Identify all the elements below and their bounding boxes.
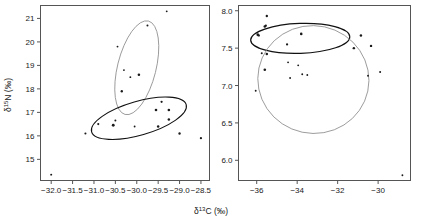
scatter-figure: −32.0−31.5−31.0−30.5−30.0−29.5−29.0−28.5… (0, 0, 422, 222)
y-axis-title-rest: N (‰) (3, 78, 13, 101)
y-axis-title: δ15N (‰) (3, 78, 13, 112)
y-tick-label-left-1: 16 (26, 132, 35, 141)
data-point-right-1 (258, 34, 260, 36)
data-point-right-13 (300, 33, 303, 36)
data-point-right-10 (287, 61, 289, 63)
data-point-right-20 (379, 71, 381, 73)
x-axis-title: δ13C (‰) (194, 206, 228, 216)
x-axis-title-rest: C (‰) (205, 206, 228, 216)
x-tick-label-left-3: −30.5 (105, 186, 126, 195)
x-tick-label-left-7: −28.5 (191, 186, 212, 195)
data-point-left-12 (155, 109, 158, 112)
data-point-left-6 (121, 90, 123, 92)
x-tick-label-left-1: −31.5 (62, 186, 83, 195)
ellipse-left-upper-ellipse (106, 16, 167, 119)
y-tick-label-right-3: 7.5 (221, 44, 233, 53)
figure-root: −32.0−31.5−31.0−30.5−30.0−29.5−29.0−28.5… (0, 0, 422, 222)
data-point-left-15 (166, 10, 168, 12)
x-tick-label-left-4: −30.0 (127, 186, 148, 195)
y-tick-label-left-4: 19 (26, 61, 35, 70)
x-tick-label-right-1: −34 (290, 186, 304, 195)
data-point-right-18 (367, 75, 369, 77)
data-point-left-5 (117, 46, 119, 48)
data-point-left-1 (84, 132, 86, 134)
x-tick-label-left-5: −29.5 (148, 186, 169, 195)
y-tick-label-right-1: 6.5 (221, 119, 233, 128)
y-tick-label-left-3: 18 (26, 85, 35, 94)
ellipse-right-lower-ellipse (248, 15, 379, 143)
data-point-left-9 (134, 126, 136, 128)
x-tick-label-right-2: −32 (331, 186, 345, 195)
panel-right: −36−34−32−306.06.57.07.58.0 (221, 6, 410, 195)
data-point-left-10 (138, 73, 141, 76)
data-point-left-16 (168, 109, 171, 112)
data-point-right-17 (360, 34, 362, 36)
data-point-right-9 (286, 43, 288, 45)
x-tick-label-right-0: −36 (250, 186, 264, 195)
data-point-right-6 (266, 15, 268, 17)
data-point-left-11 (146, 24, 148, 26)
data-point-right-7 (266, 53, 268, 55)
data-point-left-18 (178, 132, 180, 134)
panel-left: −32.0−31.5−31.0−30.5−30.0−29.5−29.0−28.5… (26, 6, 212, 195)
ellipse-left-lower-ellipse (87, 88, 191, 148)
data-point-left-19 (200, 137, 202, 139)
data-point-right-2 (255, 90, 257, 92)
data-point-left-2 (97, 123, 99, 125)
y-tick-label-left-5: 20 (26, 38, 35, 47)
data-point-right-21 (401, 174, 403, 176)
data-point-right-5 (265, 25, 267, 27)
y-tick-label-right-2: 7.0 (221, 82, 233, 91)
data-point-left-13 (157, 125, 159, 127)
x-tick-label-right-3: −30 (371, 186, 385, 195)
data-point-left-14 (160, 101, 162, 103)
data-point-left-7 (123, 69, 125, 71)
y-tick-label-left-0: 15 (26, 155, 35, 164)
y-tick-label-right-4: 8.0 (221, 7, 233, 16)
data-point-right-14 (301, 73, 303, 75)
data-point-left-3 (112, 124, 115, 127)
data-point-right-16 (353, 47, 355, 49)
data-point-left-4 (114, 120, 116, 122)
x-tick-label-left-6: −29.0 (169, 186, 190, 195)
plot-frame-right (239, 6, 411, 181)
data-point-right-15 (306, 74, 308, 76)
y-tick-label-right-0: 6.0 (221, 156, 233, 165)
data-point-left-17 (168, 118, 170, 120)
y-tick-label-left-6: 21 (26, 14, 35, 23)
data-point-right-19 (370, 45, 372, 47)
data-point-left-0 (50, 174, 52, 176)
plot-frame-left (41, 6, 210, 181)
x-tick-label-left-0: −32.0 (41, 186, 62, 195)
data-point-right-3 (261, 52, 263, 54)
data-point-right-8 (264, 69, 267, 72)
data-point-left-8 (129, 76, 131, 78)
data-point-right-12 (297, 64, 299, 66)
data-point-right-11 (289, 77, 291, 79)
y-tick-label-left-2: 17 (26, 108, 35, 117)
x-tick-label-left-2: −31.0 (84, 186, 105, 195)
